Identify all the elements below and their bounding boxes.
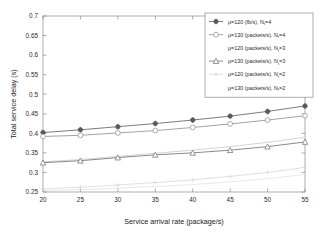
line-chart: 2025303540455055 0.250.30.350.40.450.50.… — [0, 0, 324, 234]
series-line-4 — [41, 165, 308, 191]
x-tick-label: 55 — [301, 196, 309, 203]
y-tick-label: 0.7 — [29, 12, 38, 19]
y-tick-label: 0.55 — [26, 71, 39, 78]
chart-legend: μ=120 (fb/s), Nt=4μ=130 (packets/s), Nt=… — [205, 13, 313, 97]
series-line-2 — [43, 137, 305, 162]
y-tick-label: 0.65 — [26, 32, 39, 39]
y-tick-label: 0.35 — [26, 149, 39, 156]
x-tick-label: 20 — [39, 196, 47, 203]
series-line-5 — [43, 174, 305, 190]
y-axis-title: Total service delay (s) — [9, 69, 18, 139]
x-tick-label: 25 — [77, 196, 85, 203]
series-line-1 — [41, 113, 308, 139]
x-tick-labels: 2025303540455055 — [39, 196, 309, 203]
y-tick-label: 0.6 — [29, 51, 38, 58]
x-axis-title: Service arrival rate (package/s) — [124, 217, 223, 226]
x-tick-label: 30 — [114, 196, 122, 203]
x-tick-label: 35 — [152, 196, 160, 203]
series-line-3 — [40, 139, 307, 165]
series-layer — [40, 103, 308, 191]
y-tick-label: 0.3 — [29, 169, 38, 176]
figure-canvas: 2025303540455055 0.250.30.350.40.450.50.… — [0, 0, 324, 234]
y-tick-labels: 0.250.30.350.40.450.50.550.60.650.7 — [26, 12, 39, 195]
y-tick-label: 0.4 — [29, 130, 38, 137]
x-tick-label: 45 — [227, 196, 235, 203]
y-tick-label: 0.5 — [29, 91, 38, 98]
y-tick-label: 0.45 — [26, 110, 39, 117]
y-tick-label: 0.25 — [26, 188, 39, 195]
x-tick-label: 50 — [264, 196, 272, 203]
x-tick-label: 40 — [189, 196, 197, 203]
